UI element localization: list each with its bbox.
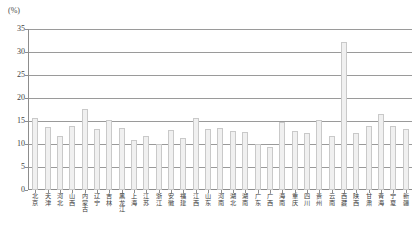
x-axis-category-label: 上海 bbox=[130, 193, 139, 206]
bar bbox=[168, 130, 174, 190]
x-axis-category-label: 陕西 bbox=[352, 193, 361, 206]
x-axis-tickmark bbox=[183, 190, 184, 193]
bar-slot bbox=[41, 29, 53, 190]
x-axis-tickmark bbox=[332, 190, 333, 193]
bar-slot bbox=[78, 29, 90, 190]
x-axis-category-label: 吉林 bbox=[105, 193, 114, 206]
x-axis-category-labels: 北京天津河北山西内蒙古辽宁吉林黑龙江上海江苏浙江安徽福建江西山东河南湖北湖南广东… bbox=[29, 193, 412, 249]
x-axis-category-label: 安徽 bbox=[167, 193, 176, 206]
bar-slot bbox=[313, 29, 325, 190]
x-axis-category-label: 海南 bbox=[278, 193, 287, 206]
y-axis-tickmark bbox=[25, 121, 28, 122]
x-axis-tickmark bbox=[60, 190, 61, 193]
bar bbox=[267, 147, 273, 190]
bar bbox=[279, 122, 285, 190]
bar-slot bbox=[140, 29, 152, 190]
bar-slot bbox=[29, 29, 41, 190]
bar-slot bbox=[227, 29, 239, 190]
x-axis-tickmark bbox=[295, 190, 296, 193]
bar-slot bbox=[387, 29, 399, 190]
bar-slot bbox=[301, 29, 313, 190]
x-axis-category-label: 广东 bbox=[253, 193, 262, 206]
bar-slot bbox=[202, 29, 214, 190]
x-axis-category-label: 宁夏 bbox=[389, 193, 398, 206]
bar bbox=[230, 131, 236, 190]
y-axis-tickmark bbox=[25, 190, 28, 191]
y-axis-tickmark bbox=[25, 29, 28, 30]
bar bbox=[217, 128, 223, 190]
x-axis-tickmark bbox=[48, 190, 49, 193]
y-axis-tick-label: 0 bbox=[3, 186, 25, 194]
x-axis-tickmark bbox=[319, 190, 320, 193]
x-axis-category-label: 贵州 bbox=[315, 193, 324, 206]
y-axis-tick-label: 30 bbox=[3, 48, 25, 56]
x-axis-tickmark bbox=[159, 190, 160, 193]
bar bbox=[304, 133, 310, 191]
x-axis-tickmark bbox=[406, 190, 407, 193]
bar-slot bbox=[91, 29, 103, 190]
bar bbox=[403, 129, 409, 190]
bar bbox=[353, 133, 359, 190]
bar bbox=[366, 126, 372, 190]
bar bbox=[131, 140, 137, 190]
x-axis-category-label: 广西 bbox=[265, 193, 274, 206]
bar-slot bbox=[115, 29, 127, 190]
y-axis-tickmark bbox=[25, 52, 28, 53]
x-axis-tickmark bbox=[270, 190, 271, 193]
bar bbox=[119, 128, 125, 190]
bar-slot bbox=[190, 29, 202, 190]
x-axis-category-label: 山西 bbox=[68, 193, 77, 206]
bar bbox=[341, 42, 347, 190]
bar bbox=[32, 118, 38, 190]
bar bbox=[205, 129, 211, 190]
bar-slot bbox=[103, 29, 115, 190]
bar-slot bbox=[214, 29, 226, 190]
y-axis-tickmark bbox=[25, 75, 28, 76]
y-axis-tick-label: 15 bbox=[3, 117, 25, 125]
x-axis-category-label: 山东 bbox=[204, 193, 213, 206]
x-axis-tickmark bbox=[282, 190, 283, 193]
x-axis-category-label: 辽宁 bbox=[92, 193, 101, 206]
bar-slot bbox=[264, 29, 276, 190]
bar bbox=[82, 109, 88, 190]
bar bbox=[390, 126, 396, 190]
x-axis-tickmark bbox=[221, 190, 222, 193]
x-axis-tickmark bbox=[393, 190, 394, 193]
x-axis-tickmark bbox=[122, 190, 123, 193]
bar bbox=[69, 126, 75, 190]
x-axis-category-label: 内蒙古 bbox=[80, 193, 89, 213]
x-axis-tickmark bbox=[134, 190, 135, 193]
x-axis-tickmark bbox=[97, 190, 98, 193]
y-axis-tickmark bbox=[25, 167, 28, 168]
y-axis-tick-label: 25 bbox=[3, 71, 25, 79]
x-axis-tickmark bbox=[72, 190, 73, 193]
bar bbox=[180, 138, 186, 190]
bar-slot bbox=[338, 29, 350, 190]
x-axis-tickmark bbox=[35, 190, 36, 193]
y-axis-tick-label: 20 bbox=[3, 94, 25, 102]
bar bbox=[242, 132, 248, 190]
y-axis-tick-label: 35 bbox=[3, 25, 25, 33]
x-axis-category-label: 重庆 bbox=[290, 193, 299, 206]
x-axis-tickmark bbox=[196, 190, 197, 193]
bar-slot bbox=[276, 29, 288, 190]
x-axis-tickmark bbox=[307, 190, 308, 193]
bar-slot bbox=[350, 29, 362, 190]
bar bbox=[193, 118, 199, 190]
bar-slot bbox=[66, 29, 78, 190]
y-axis-unit-label: (%) bbox=[8, 6, 20, 16]
x-axis-category-label: 江苏 bbox=[142, 193, 151, 206]
x-axis-category-label: 新疆 bbox=[401, 193, 410, 206]
x-axis-category-label: 浙江 bbox=[154, 193, 163, 206]
y-axis-tick-labels: 35302520151050 bbox=[0, 29, 25, 190]
bar bbox=[329, 136, 335, 190]
x-axis-category-label: 北京 bbox=[31, 193, 40, 206]
x-axis-tickmark bbox=[109, 190, 110, 193]
x-axis-tickmark bbox=[344, 190, 345, 193]
bar bbox=[316, 120, 322, 190]
y-axis-tickmark bbox=[25, 98, 28, 99]
bar-slot bbox=[251, 29, 263, 190]
bar-slot bbox=[165, 29, 177, 190]
y-axis-tick-label: 10 bbox=[3, 140, 25, 148]
x-axis-category-label: 福建 bbox=[179, 193, 188, 206]
